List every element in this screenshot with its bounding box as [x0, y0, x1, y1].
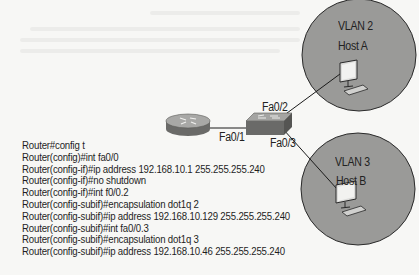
config-line: Router(config-subif)#ip address 192.168.… [22, 246, 290, 258]
router-config-listing: Router#config t Router(config)#int fa0/0… [22, 140, 334, 258]
port-fa0-2-label: Fa0/2 [262, 100, 288, 114]
host-a-label: Host A [338, 39, 368, 53]
host-b-label: Host B [336, 174, 366, 188]
vlan-3-label: VLAN 3 [335, 155, 370, 169]
router-icon [166, 114, 210, 136]
vlan-2-label: VLAN 2 [338, 19, 373, 33]
vlan-2-zone [302, 0, 416, 111]
switch-icon [246, 113, 292, 135]
